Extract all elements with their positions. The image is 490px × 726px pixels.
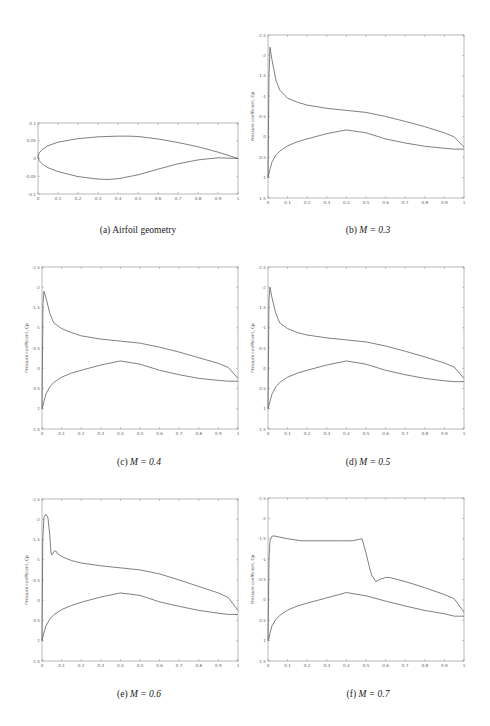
- x-tick-label: 0.4: [343, 663, 350, 668]
- y-tick-label: -2.5: [258, 496, 267, 501]
- x-tick-label: 1: [463, 663, 466, 668]
- caption-f-prefix: (f): [347, 689, 357, 699]
- x-tick-label: 0.6: [382, 663, 389, 668]
- caption-f-math: M = 0.7: [358, 689, 389, 699]
- axes-frame: [268, 498, 464, 661]
- x-tick-label: 0.2: [304, 663, 311, 668]
- chart-f: 00.10.20.30.40.50.60.70.80.91-2.5-2-1.5-…: [0, 0, 490, 726]
- caption-f: (f) M = 0.7: [347, 689, 390, 699]
- x-tick-label: 0.7: [402, 663, 409, 668]
- y-tick-label: 1.5: [259, 659, 266, 664]
- upper-surface-curve: [268, 536, 464, 641]
- y-tick-label: -1: [262, 557, 267, 562]
- x-tick-label: 0.3: [323, 663, 330, 668]
- y-tick-label: -2: [262, 516, 267, 521]
- y-tick-label: -1.5: [258, 536, 267, 541]
- x-tick-label: 0: [267, 663, 270, 668]
- panel-f-cp-m07: 00.10.20.30.40.50.60.70.80.91-2.5-2-1.5-…: [0, 0, 490, 726]
- x-tick-label: 0.9: [441, 663, 448, 668]
- x-tick-label: 0.8: [421, 663, 428, 668]
- y-tick-label: 0.5: [259, 618, 266, 623]
- x-tick-label: 0.1: [284, 663, 291, 668]
- x-tick-label: 0.5: [363, 663, 370, 668]
- y-tick-label: 0: [263, 597, 266, 602]
- y-axis-label: Pressure coefficient, Cp: [250, 555, 255, 605]
- y-tick-label: -0.5: [258, 577, 267, 582]
- y-tick-label: 1: [263, 638, 266, 643]
- lower-surface-curve: [268, 593, 464, 641]
